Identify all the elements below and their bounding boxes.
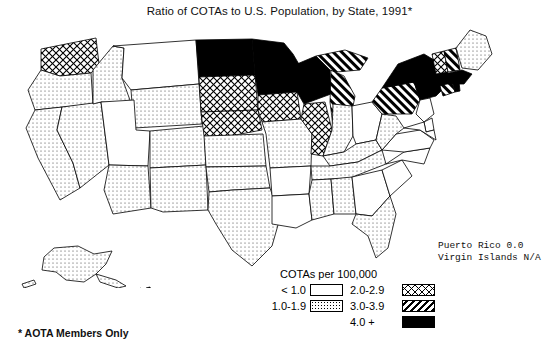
legend-label-2-0-2-9: 2.0-2.9 [350, 284, 400, 297]
state-arkansas [270, 166, 311, 196]
state-south-dakota [199, 75, 258, 112]
legend-row-1: < 1.0 2.0-2.9 [262, 284, 442, 297]
legend-title: COTAs per 100,000 [280, 268, 377, 280]
state-oklahoma [206, 166, 270, 192]
legend-swatch-lt-1 [310, 284, 343, 296]
state-kansas [204, 134, 266, 167]
legend-swatch-3-0-3-9 [402, 300, 435, 312]
puerto-rico-note: Puerto Rico 0.0 [438, 240, 524, 251]
territory-notes: Puerto Rico 0.0Virgin Islands N/A [438, 240, 541, 264]
legend-label-lt-1: < 1.0 [262, 284, 306, 297]
state-hawaii [137, 287, 196, 288]
legend: COTAs per 100,000 < 1.0 2.0-2.9 1.0-1.9 … [262, 268, 442, 324]
state-wyoming [131, 84, 202, 128]
state-louisiana [272, 194, 312, 228]
state-iowa [258, 92, 301, 122]
virgin-islands-note: Virgin Islands N/A [438, 252, 541, 263]
state-pennsylvania [372, 82, 420, 114]
state-arizona [104, 165, 151, 214]
state-minnesota [252, 39, 300, 95]
legend-label-3-0-3-9: 3.0-3.9 [350, 300, 400, 313]
legend-swatch-4-0-plus [402, 316, 435, 328]
legend-swatch-2-0-2-9 [402, 284, 435, 296]
state-mississippi [309, 179, 334, 220]
legend-row-2: 1.0-1.9 3.0-3.9 [262, 300, 442, 313]
legend-label-4-0-plus: 4.0 + [350, 316, 400, 329]
legend-label-1-0-1-9: 1.0-1.9 [254, 300, 306, 313]
state-missouri [262, 119, 312, 168]
footnote: * AOTA Members Only [18, 327, 128, 339]
legend-swatch-1-0-1-9 [310, 300, 343, 312]
page-title: Ratio of COTAs to U.S. Population, by St… [0, 5, 559, 17]
state-montana [113, 40, 199, 90]
state-colorado [150, 126, 206, 168]
state-alaska-aleutians [22, 280, 36, 288]
legend-row-3: 4.0 + [262, 316, 442, 329]
map-figure: Ratio of COTAs to U.S. Population, by St… [0, 0, 559, 352]
state-nebraska [201, 110, 262, 136]
state-new-mexico [150, 165, 208, 212]
state-alaska-panhandle [96, 274, 126, 288]
state-washington [41, 38, 99, 76]
state-texas [208, 188, 280, 266]
state-maine [456, 30, 492, 70]
state-north-dakota [196, 39, 255, 77]
